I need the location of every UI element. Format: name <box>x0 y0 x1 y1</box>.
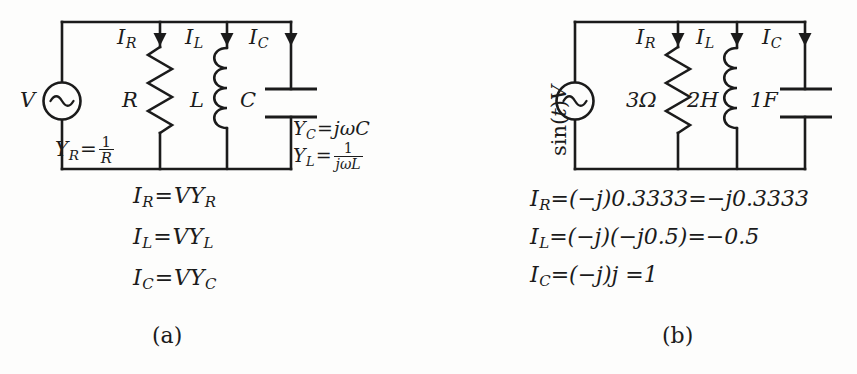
component-label-c-a: C <box>240 90 256 111</box>
admittance-note-yc-a: YC=jωC <box>293 119 370 142</box>
inductor-b <box>724 22 737 169</box>
capacitor-b <box>780 89 832 117</box>
equation-il-b: IL=(−j)(−j0.5)=−0.5 <box>530 226 759 251</box>
source-label-b: sin(t)V <box>547 85 571 156</box>
source-label-a: V <box>20 90 35 111</box>
admittance-note-yr-a: YR=1R <box>55 134 115 166</box>
current-arrows-a <box>154 33 298 46</box>
circuit-schematic-a <box>0 0 440 374</box>
equation-ic-b: IC=(−j)j =1 <box>530 264 658 289</box>
admittance-note-yl-a: YL=1jωL <box>293 141 364 171</box>
current-label-ic-a: IC <box>249 27 269 50</box>
ac-source-a <box>44 83 81 120</box>
equation-il-a: IL=VYL <box>133 226 213 251</box>
component-label-l-a: L <box>190 90 204 111</box>
current-arrows-b <box>672 33 812 46</box>
component-label-inductance-b: 2H <box>687 90 719 111</box>
current-label-il-a: IL <box>185 27 203 50</box>
panel-caption-a: (a) <box>152 323 182 348</box>
circuit-figure: V IR IL IC R L C YR=1R YC=jωC <box>0 0 857 374</box>
current-label-ir-b: IR <box>636 27 656 50</box>
component-label-r-a: R <box>122 90 138 111</box>
component-label-resistance-b: 3Ω <box>626 90 657 111</box>
equation-ir-a: IR=VYR <box>133 185 216 210</box>
panel-a: V IR IL IC R L C YR=1R YC=jωC <box>0 0 440 374</box>
capacitor-a <box>265 89 317 117</box>
component-label-capacitance-b: 1F <box>750 90 778 111</box>
current-label-ic-b: IC <box>762 27 782 50</box>
current-label-il-b: IL <box>696 27 714 50</box>
panel-b: sin(t)V IR IL IC 3Ω 2H 1F IR=(−j)0.3333=… <box>440 0 857 374</box>
inductor-a <box>214 22 227 169</box>
equation-ic-a: IC=VYC <box>133 267 216 292</box>
panel-caption-b: (b) <box>662 323 693 348</box>
current-label-ir-a: IR <box>117 27 137 50</box>
equation-ir-b: IR=(−j)0.3333=−j0.3333 <box>530 188 809 213</box>
